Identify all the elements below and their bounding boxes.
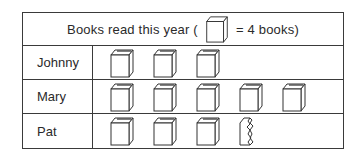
row-label: Pat	[23, 114, 93, 148]
icon-group	[109, 82, 307, 112]
row-johnny: Johnny	[23, 46, 343, 80]
row-label: Mary	[23, 80, 93, 113]
half-book-icon	[238, 116, 264, 146]
book-icon	[109, 82, 135, 112]
book-icon	[204, 15, 230, 43]
book-icon	[109, 116, 135, 146]
book-icon	[195, 82, 221, 112]
title-suffix: = 4 books)	[236, 22, 299, 37]
book-icon	[152, 116, 178, 146]
book-icon	[109, 48, 135, 78]
icon-group	[109, 48, 221, 78]
row-mary: Mary	[23, 80, 343, 114]
row-pat: Pat	[23, 114, 343, 148]
title-prefix: Books read this year (	[67, 22, 198, 37]
book-icon	[195, 116, 221, 146]
pictograph-table: Books read this year ( = 4 books) Johnny…	[22, 12, 344, 149]
icon-group	[109, 116, 264, 146]
book-icon	[195, 48, 221, 78]
book-icon	[152, 48, 178, 78]
book-icon	[152, 82, 178, 112]
book-icon	[281, 82, 307, 112]
chart-title: Books read this year ( = 4 books)	[23, 13, 343, 46]
row-label: Johnny	[23, 46, 93, 79]
book-icon	[238, 82, 264, 112]
